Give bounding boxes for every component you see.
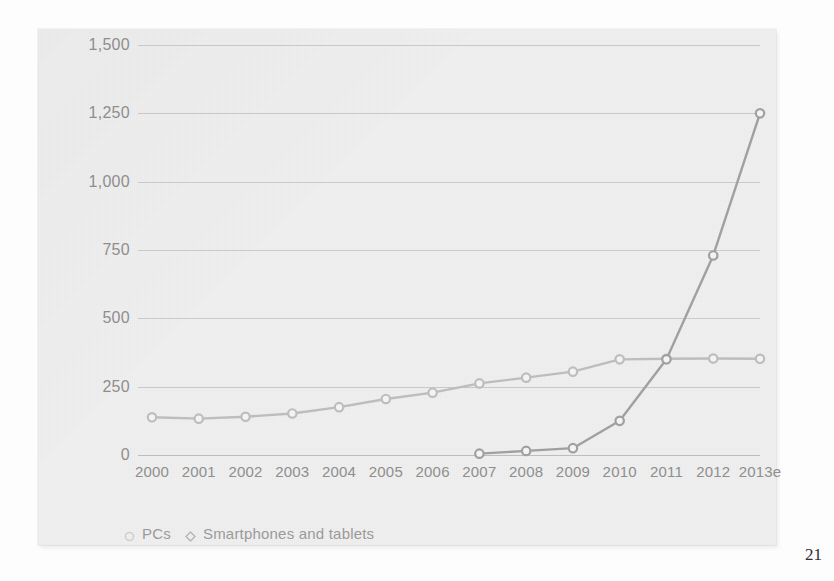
series-data-point [569,367,577,375]
legend-item-smartphones: Smartphones and tablets [185,525,374,542]
series-data-point [288,409,296,417]
series-data-point [475,379,483,387]
series-data-point [756,355,764,363]
x-axis-tick-label: 2000 [135,463,169,480]
series-line [479,113,760,453]
x-axis-tick-label: 2006 [416,463,450,480]
scanned-page: 02505007501,0001,2501,500 20002001200220… [0,0,834,581]
legend-item-pcs: PCs [124,525,171,542]
series-data-point [615,417,623,425]
x-axis-tick-label: 2012 [696,463,730,480]
series-data-point [662,355,670,363]
chart-figure-panel: 02505007501,0001,2501,500 20002001200220… [38,29,776,545]
legend-label-pcs: PCs [142,525,171,542]
series-data-point [241,413,249,421]
x-axis-tick-label: 2009 [556,463,590,480]
gridline [138,455,760,456]
series-data-point [335,403,343,411]
series-data-point [709,251,717,259]
legend-label-smartphones: Smartphones and tablets [203,525,374,542]
series-data-point [148,413,156,421]
chart-legend: PCs Smartphones and tablets [124,525,374,542]
chart-series-layer [100,45,760,455]
x-axis-tick-label: 2005 [369,463,403,480]
page-number: 21 [805,545,822,565]
x-axis-tick-label: 2013e [739,463,782,480]
series-data-point [382,395,390,403]
series-data-point [195,414,203,422]
series-data-point [522,447,530,455]
chart-plot-area: 02505007501,0001,2501,500 20002001200220… [100,45,760,455]
x-axis-tick-label: 2001 [182,463,216,480]
x-axis-tick-label: 2010 [603,463,637,480]
circle-marker-icon [124,528,135,539]
x-axis-tick-label: 2008 [509,463,543,480]
series-data-point [709,354,717,362]
x-axis-tick-label: 2007 [462,463,496,480]
series-data-point [475,449,483,457]
x-axis-tick-label: 2011 [650,463,683,480]
series-line [152,359,760,419]
x-axis-tick-label: 2003 [275,463,309,480]
series-data-point [428,388,436,396]
x-axis-tick-label: 2002 [228,463,262,480]
series-data-point [569,444,577,452]
diamond-marker-icon [185,528,196,539]
x-axis-tick-label: 2004 [322,463,356,480]
series-data-point [756,109,764,117]
series-data-point [615,355,623,363]
series-data-point [522,373,530,381]
